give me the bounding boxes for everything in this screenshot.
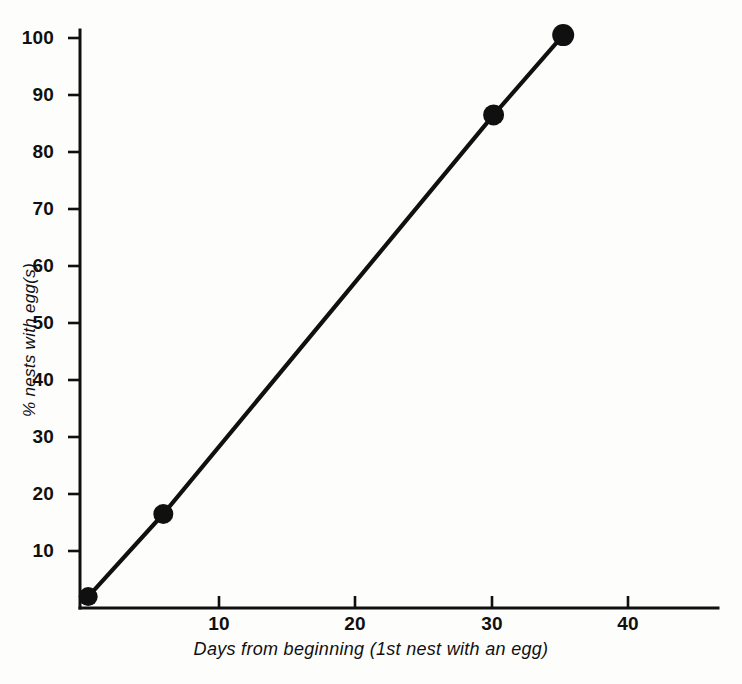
data-point <box>79 587 98 606</box>
x-tick-label-40: 40 <box>598 613 658 635</box>
y-tick-label-10: 10 <box>6 540 54 562</box>
data-point <box>552 24 574 46</box>
figure-root: 100 90 80 70 60 50 40 30 20 10 10 20 30 … <box>0 0 742 684</box>
data-point <box>153 504 173 524</box>
x-tick-label-10: 10 <box>189 613 249 635</box>
y-tick-label-20: 20 <box>6 483 54 505</box>
y-axis-ticks <box>68 38 80 551</box>
y-tick-label-80: 80 <box>6 141 54 163</box>
plot-area <box>0 0 742 684</box>
x-axis-ticks <box>219 596 628 608</box>
y-tick-label-100: 100 <box>6 27 54 49</box>
x-tick-label-30: 30 <box>462 613 522 635</box>
x-axis-title: Days from beginning (1st nest with an eg… <box>0 639 742 660</box>
y-tick-label-90: 90 <box>6 84 54 106</box>
x-tick-label-20: 20 <box>325 613 385 635</box>
data-point <box>483 104 504 125</box>
y-axis-title: % nests with egg(s) <box>20 210 40 470</box>
